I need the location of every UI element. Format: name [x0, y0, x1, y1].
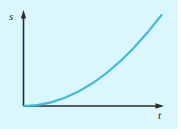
x-axis-label: t: [158, 110, 161, 121]
vertical-axis-arrow-icon: [21, 10, 26, 19]
y-axis-label: s: [9, 11, 13, 22]
data-curve: [24, 15, 162, 106]
graph-figure: s t: [0, 0, 181, 135]
graph-canvas: [0, 0, 181, 135]
horizontal-axis-arrow-icon: [156, 103, 165, 108]
